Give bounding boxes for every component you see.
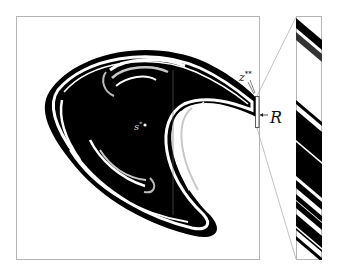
- s-star-label: s*: [134, 120, 142, 132]
- region-r-label: R: [270, 108, 282, 127]
- zoom-line-top: [257, 17, 296, 96]
- saddle-point-marker: [143, 123, 146, 126]
- r-label-text: R: [270, 108, 282, 127]
- z-double-star-label: z**: [239, 70, 252, 84]
- figure-canvas: [0, 0, 338, 273]
- z-label-superscript: **: [245, 70, 252, 78]
- s-label-superscript: *: [139, 120, 142, 127]
- region-box: [256, 97, 260, 128]
- zoom-line-bottom: [257, 128, 296, 259]
